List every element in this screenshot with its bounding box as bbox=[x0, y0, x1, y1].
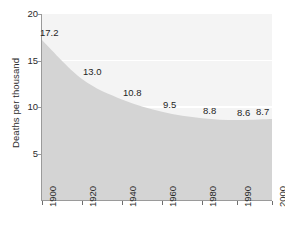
data-label-1980: 8.8 bbox=[203, 105, 216, 116]
data-label-1920: 13.0 bbox=[83, 66, 102, 77]
y-tick-label-10: 10 bbox=[4, 102, 38, 112]
x-tick-mark-2000 bbox=[272, 201, 273, 205]
data-label-1940: 10.8 bbox=[123, 87, 142, 98]
data-label-2000: 8.7 bbox=[256, 106, 269, 117]
x-tick-mark-1960 bbox=[162, 201, 163, 205]
data-label-1990: 8.6 bbox=[237, 107, 250, 118]
x-tick-mark-1920 bbox=[82, 201, 83, 205]
x-tick-mark-1990 bbox=[237, 201, 238, 205]
x-tick-mark-1940 bbox=[122, 201, 123, 205]
x-tick-label-1940: 1940 bbox=[127, 186, 138, 207]
data-label-1960: 9.5 bbox=[163, 99, 176, 110]
data-label-1900: 17.2 bbox=[40, 27, 59, 38]
x-tick-label-1920: 1920 bbox=[87, 186, 98, 207]
x-tick-label-1990: 1990 bbox=[242, 186, 253, 207]
x-tick-label-1980: 1980 bbox=[207, 186, 218, 207]
y-axis-ticks: 5101520 bbox=[0, 0, 38, 240]
y-tick-label-5: 5 bbox=[4, 149, 38, 159]
x-tick-label-2000: 2000 bbox=[277, 186, 285, 207]
x-tick-mark-1900 bbox=[42, 201, 43, 205]
area-chart: Deaths per thousand 5101520 17.213.010.8… bbox=[0, 0, 285, 240]
y-tick-label-20: 20 bbox=[4, 9, 38, 19]
x-tick-label-1960: 1960 bbox=[167, 186, 178, 207]
y-tick-label-15: 15 bbox=[4, 56, 38, 66]
x-tick-mark-1980 bbox=[202, 201, 203, 205]
x-tick-label-1900: 1900 bbox=[47, 186, 58, 207]
